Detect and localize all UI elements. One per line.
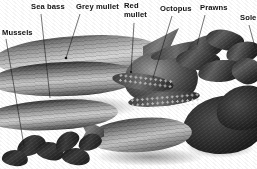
label-octopus: Octopus (160, 5, 192, 14)
leader-line-sea-bass (41, 14, 50, 98)
leader-lines (0, 0, 257, 169)
leader-dot-red-mullet (130, 71, 132, 73)
leader-line-mussels (6, 39, 24, 146)
label-sole: Sole (240, 14, 256, 23)
label-mussels: Mussels (2, 29, 33, 38)
leader-line-grey-mullet (66, 14, 80, 58)
leader-line-octopus (153, 16, 172, 78)
leader-dot-grey-mullet (65, 57, 68, 60)
leader-line-red-mullet (131, 23, 134, 72)
leader-line-sole (249, 25, 255, 47)
label-prawns: Prawns (200, 4, 228, 13)
leader-line-prawns (197, 15, 205, 45)
label-sea-bass: Sea bass (31, 3, 65, 12)
annotation-layer: Mussels Sea bass Grey mullet Red mullet … (0, 0, 257, 169)
seafood-photo-figure: Mussels Sea bass Grey mullet Red mullet … (0, 0, 257, 169)
label-red-mullet: Red mullet (124, 2, 147, 19)
label-grey-mullet: Grey mullet (76, 3, 119, 12)
